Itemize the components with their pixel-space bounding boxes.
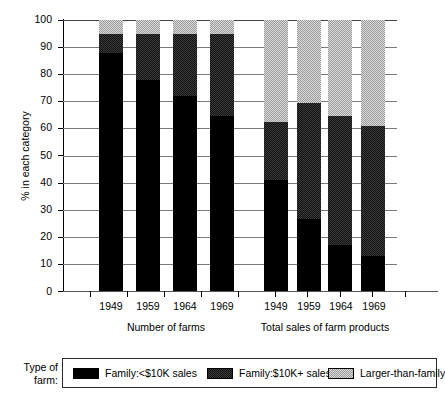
y-tick-label: 20 bbox=[18, 231, 52, 241]
x-tick-label-1964-farms: 1964 bbox=[165, 300, 205, 312]
bar-segment-family-10k-plus bbox=[99, 34, 123, 53]
bar-segment-family-under-10k bbox=[173, 96, 197, 291]
x-tick-mark bbox=[201, 291, 202, 297]
bar-segment-larger-than-family bbox=[99, 20, 123, 34]
x-tick-label-1959-farms: 1959 bbox=[128, 300, 168, 312]
y-tick-label: 0 bbox=[18, 286, 52, 296]
group-label-total-sales: Total sales of farm products bbox=[230, 321, 420, 333]
solid-black-swatch-icon bbox=[73, 368, 99, 379]
bar-segment-larger-than-family bbox=[328, 20, 352, 116]
plot-area bbox=[63, 20, 397, 291]
bar-segment-family-under-10k bbox=[136, 80, 160, 291]
x-tick-mark bbox=[164, 291, 165, 297]
legend-label: Family:<$10K sales bbox=[105, 367, 197, 379]
bar-segment-family-10k-plus bbox=[361, 126, 385, 256]
y-tick-label: 100 bbox=[18, 14, 52, 24]
x-tick-mark bbox=[307, 291, 308, 297]
legend-title-line-2: farm: bbox=[4, 374, 58, 387]
bar-segment-family-under-10k bbox=[361, 256, 385, 291]
x-tick-mark bbox=[275, 291, 276, 297]
bar-segment-family-under-10k bbox=[210, 116, 234, 291]
bar-segment-family-10k-plus bbox=[297, 103, 321, 220]
legend-box: Family:<$10K sales Family:$10K+ sales La… bbox=[62, 358, 437, 388]
bar-segment-family-10k-plus bbox=[328, 116, 352, 245]
dark-checker-swatch-icon bbox=[207, 368, 233, 379]
bar-segment-family-10k-plus bbox=[173, 34, 197, 96]
legend-label: Family:$10K+ sales bbox=[239, 367, 331, 379]
bar-segment-family-under-10k bbox=[99, 53, 123, 292]
y-axis-labels: 100 90 80 70 60 50 40 30 20 10 0 bbox=[0, 0, 60, 330]
y-tick-label: 40 bbox=[18, 177, 52, 187]
bar-segment-larger-than-family bbox=[297, 20, 321, 103]
y-tick-label: 70 bbox=[18, 95, 52, 105]
bar-segment-family-10k-plus bbox=[136, 34, 160, 80]
legend-title: Type of farm: bbox=[4, 361, 58, 386]
bar-segment-larger-than-family bbox=[210, 20, 234, 34]
bar-segment-family-under-10k bbox=[264, 180, 288, 291]
x-tick-mark bbox=[127, 291, 128, 297]
bar-segment-larger-than-family bbox=[173, 20, 197, 34]
legend-title-line-1: Type of bbox=[4, 361, 58, 374]
x-axis-line bbox=[63, 291, 438, 292]
bar-segment-larger-than-family bbox=[264, 20, 288, 122]
bar-segment-larger-than-family bbox=[361, 20, 385, 126]
bar-segment-family-10k-plus bbox=[210, 34, 234, 117]
y-tick-label: 90 bbox=[18, 41, 52, 51]
x-tick-mark bbox=[405, 291, 406, 297]
x-tick-label-1969-sales: 1969 bbox=[354, 300, 394, 312]
x-tick-mark bbox=[90, 291, 91, 297]
y-tick-label: 50 bbox=[18, 150, 52, 160]
x-tick-mark bbox=[340, 291, 341, 297]
bar-segment-larger-than-family bbox=[136, 20, 160, 34]
light-checker-swatch-icon bbox=[328, 368, 354, 379]
bar-segment-family-under-10k bbox=[297, 219, 321, 291]
y-tick-label: 10 bbox=[18, 258, 52, 268]
y-tick-label: 60 bbox=[18, 122, 52, 132]
y-tick-label: 80 bbox=[18, 68, 52, 78]
bar-segment-family-under-10k bbox=[328, 245, 352, 291]
x-tick-mark bbox=[372, 291, 373, 297]
y-tick-label: 30 bbox=[18, 204, 52, 214]
x-tick-mark bbox=[238, 291, 239, 297]
legend-label: Larger-than-family bbox=[360, 367, 445, 379]
bar-segment-family-10k-plus bbox=[264, 122, 288, 180]
x-tick-label-1969-farms: 1969 bbox=[202, 300, 242, 312]
x-tick-label-1949-farms: 1949 bbox=[91, 300, 131, 312]
